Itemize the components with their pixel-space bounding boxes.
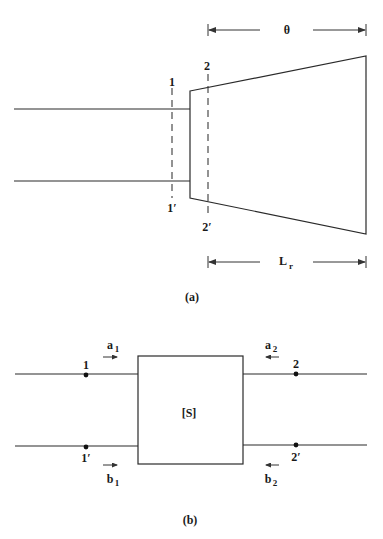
- theta-dimension: θ: [208, 23, 366, 37]
- svg-text:1: 1: [115, 478, 120, 488]
- svg-text:b: b: [265, 472, 272, 486]
- horn-flare: [190, 56, 366, 234]
- length-label-subscript: r: [289, 261, 293, 271]
- theta-label: θ: [284, 23, 290, 37]
- reflected-wave-b2: b 2: [265, 465, 279, 488]
- terminal-2-prime-label: 2′: [291, 450, 300, 464]
- caption-b: (b): [183, 513, 198, 527]
- two-port-horn-diagram: 1 1′ 2 2′ θ L r (a) [S]: [0, 0, 383, 539]
- svg-text:b: b: [107, 472, 114, 486]
- figure-b: [S] 1 1′ 2 2′ a 1 b 1 a 2: [15, 338, 367, 527]
- length-label: L: [279, 254, 287, 268]
- svg-text:a: a: [107, 338, 113, 352]
- incident-wave-a1: a 1: [103, 338, 120, 357]
- reflected-wave-b1: b 1: [103, 465, 120, 488]
- terminal-2-prime-dot: [294, 443, 299, 448]
- figure-a: 1 1′ 2 2′ θ L r (a): [14, 23, 366, 304]
- terminal-1-dot: [84, 373, 89, 378]
- terminal-1-label: 1: [83, 358, 89, 372]
- terminal-2-dot: [294, 372, 299, 377]
- svg-text:2: 2: [273, 344, 278, 354]
- terminal-2-label: 2: [293, 357, 299, 371]
- plane-2-prime-label: 2′: [202, 220, 211, 234]
- plane-2-label: 2: [204, 59, 210, 73]
- plane-1-label: 1: [169, 75, 175, 89]
- svg-text:a: a: [265, 338, 271, 352]
- caption-a: (a): [185, 290, 199, 304]
- length-dimension: L r: [208, 254, 366, 271]
- svg-text:1: 1: [115, 344, 120, 354]
- svg-text:2: 2: [273, 478, 278, 488]
- terminal-1-prime-dot: [84, 445, 89, 450]
- plane-1-prime-label: 1′: [167, 201, 176, 215]
- terminal-1-prime-label: 1′: [81, 451, 90, 465]
- incident-wave-a2: a 2: [265, 338, 279, 357]
- scattering-matrix-label: [S]: [182, 406, 197, 420]
